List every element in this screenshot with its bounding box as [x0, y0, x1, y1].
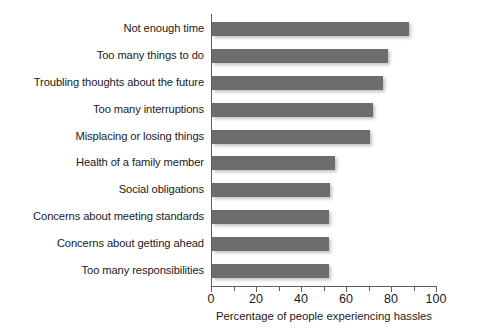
bar	[212, 76, 383, 90]
bar-row: Concerns about getting ahead	[211, 230, 436, 257]
category-label: Concerns about getting ahead	[57, 238, 204, 249]
category-label: Not enough time	[123, 24, 204, 35]
bar-row: Social obligations	[211, 177, 436, 204]
category-label: Social obligations	[119, 185, 204, 196]
category-label: Too many things to do	[97, 51, 204, 62]
x-tick-minor	[414, 286, 415, 291]
category-label: Concerns about meeting standards	[33, 211, 204, 222]
bar-row: Misplacing or losing things	[211, 123, 436, 150]
bar-row: Too many responsibilities	[211, 257, 436, 284]
bar	[212, 22, 409, 36]
bar	[212, 49, 388, 63]
x-tick-label: 40	[294, 293, 308, 306]
bar-row: Troubling thoughts about the future	[211, 70, 436, 97]
category-label: Misplacing or losing things	[75, 131, 204, 142]
category-label: Troubling thoughts about the future	[34, 77, 204, 88]
bar	[212, 156, 335, 170]
x-tick-minor	[369, 286, 370, 291]
category-label: Too many interruptions	[93, 104, 204, 115]
bar-row: Concerns about meeting standards	[211, 204, 436, 231]
bar	[212, 210, 329, 224]
bar	[212, 103, 373, 117]
category-label: Health of a family member	[76, 158, 204, 169]
bar	[212, 130, 370, 144]
plot-area: Not enough timeToo many things to doTrou…	[211, 16, 436, 284]
bar-row: Too many interruptions	[211, 96, 436, 123]
x-tick-minor	[324, 286, 325, 291]
x-tick-label: 60	[339, 293, 353, 306]
x-tick-minor	[234, 286, 235, 291]
x-tick-minor	[279, 286, 280, 291]
x-tick-label: 100	[426, 293, 447, 306]
bar-row: Too many things to do	[211, 43, 436, 70]
bar	[212, 183, 330, 197]
bar	[212, 264, 329, 278]
x-axis-title: Percentage of people experiencing hassle…	[211, 311, 437, 322]
bar-row: Not enough time	[211, 16, 436, 43]
bar-chart: Not enough timeToo many things to doTrou…	[0, 0, 479, 329]
x-tick-label: 0	[208, 293, 215, 306]
bar-row: Health of a family member	[211, 150, 436, 177]
bar	[212, 237, 329, 251]
x-tick-label: 80	[384, 293, 398, 306]
x-tick-label: 20	[249, 293, 263, 306]
category-label: Too many responsibilities	[82, 265, 204, 276]
